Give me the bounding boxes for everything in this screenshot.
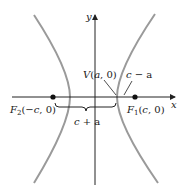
brace-c-plus-a — [55, 103, 116, 111]
focus-left-point — [50, 94, 55, 99]
vertex-label: V(a, 0) — [83, 69, 117, 80]
focus-right-point — [132, 94, 137, 99]
x-axis-label: x — [171, 99, 177, 110]
hyperbola-right-branch — [117, 14, 158, 183]
c-minus-a-label: c − a — [126, 69, 152, 80]
focus-left-label: F2(−c, 0) — [9, 104, 56, 117]
c-minus-a-leader-line — [124, 81, 132, 95]
focus-right-label: F1(c, 0) — [126, 104, 165, 117]
vertex-leader-line — [104, 80, 116, 95]
y-axis-label: y — [85, 11, 92, 22]
c-plus-a-label: c + a — [74, 116, 100, 127]
hyperbola-diagram: y x V(a, 0) c − a F2(−c, 0) F1(c, 0) c +… — [0, 0, 186, 194]
